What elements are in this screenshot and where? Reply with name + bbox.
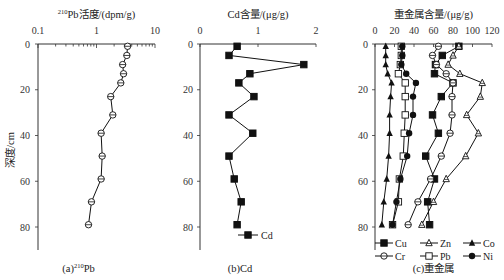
marker-open-square — [426, 253, 432, 259]
marker-filled-circle — [403, 71, 409, 77]
marker-filled-triangle — [383, 61, 389, 67]
marker-filled-triangle — [384, 70, 390, 76]
marker-filled-circle — [393, 199, 399, 205]
panel-a: 0.1110020406080210Pb活度/(dpm/g)(a)210Pb深度… — [4, 8, 160, 275]
y-tick-label: 40 — [183, 130, 193, 141]
marker-filled-square — [231, 176, 237, 182]
legend-label: Pb — [440, 251, 451, 262]
marker-filled-circle — [397, 176, 403, 182]
marker-filled-square — [247, 71, 253, 77]
marker-filled-square — [381, 240, 387, 246]
legend: CuZnCoCrPbNi — [375, 238, 495, 262]
x-tick-label: 20 — [390, 25, 400, 36]
y-tick-label: 60 — [20, 176, 30, 187]
marker-filled-triangle — [384, 175, 390, 181]
marker-filled-square — [226, 153, 232, 159]
x-tick-label: 1 — [94, 25, 99, 36]
marker-open-square — [402, 80, 408, 86]
marker-filled-square — [236, 80, 242, 86]
marker-filled-circle — [398, 61, 404, 67]
legend-label: Co — [483, 238, 495, 249]
x-tick-label: 60 — [429, 25, 439, 36]
panel-caption: (c)重金属 — [413, 262, 455, 275]
marker-open-square — [402, 93, 408, 99]
panel-b: 012020406080Cd含量/(μg/g)(b)CdCd — [183, 8, 319, 275]
y-axis-label: 深度/cm — [4, 132, 16, 168]
marker-filled-circle — [410, 93, 416, 99]
y-tick-label: 60 — [183, 176, 193, 187]
marker-filled-circle — [404, 153, 410, 159]
chart-title: 210Pb活度/(dpm/g) — [58, 8, 136, 21]
legend: Cd — [238, 230, 273, 241]
y-tick-label: 80 — [358, 222, 368, 233]
marker-filled-square — [424, 199, 430, 205]
x-tick-label: 10 — [150, 25, 160, 36]
y-tick-label: 40 — [20, 130, 30, 141]
x-tick-label: 40 — [409, 25, 419, 36]
marker-open-square — [395, 71, 401, 77]
legend-label: Cd — [261, 230, 273, 241]
panel-c: 020406080100120020406080重金属含量/(μg/g)(c)重… — [358, 8, 500, 275]
x-tick-label: 2 — [314, 25, 319, 36]
y-tick-label: 20 — [20, 84, 30, 95]
legend-label: Zn — [440, 238, 451, 249]
marker-filled-circle — [410, 112, 416, 118]
x-tick-label: 0 — [198, 25, 203, 36]
series-210pb — [85, 43, 130, 228]
marker-filled-square — [301, 61, 307, 67]
y-tick-label: 20 — [183, 84, 193, 95]
x-tick-label: 0 — [373, 25, 378, 36]
marker-filled-square — [226, 52, 232, 58]
marker-filled-square — [431, 71, 437, 77]
marker-filled-triangle — [387, 93, 393, 99]
x-tick-label: 0.1 — [32, 25, 45, 36]
marker-open-triangle — [457, 70, 463, 76]
marker-open-square — [402, 112, 408, 118]
marker-filled-square — [238, 199, 244, 205]
y-tick-label: 0 — [188, 39, 193, 50]
marker-open-triangle — [445, 61, 451, 67]
marker-filled-square — [234, 43, 240, 49]
marker-filled-triangle — [379, 221, 385, 227]
marker-filled-square — [226, 112, 232, 118]
series-co — [379, 43, 395, 228]
y-tick-label: 20 — [358, 84, 368, 95]
marker-filled-square — [250, 130, 256, 136]
marker-filled-triangle — [388, 79, 394, 85]
figure: 0.1110020406080210Pb活度/(dpm/g)(a)210Pb深度… — [0, 0, 504, 280]
y-tick-label: 60 — [358, 176, 368, 187]
chart-title: Cd含量/(μg/g) — [227, 8, 289, 21]
x-tick-label: 80 — [448, 25, 458, 36]
marker-filled-square — [439, 52, 445, 58]
marker-filled-triangle — [386, 111, 392, 117]
marker-open-triangle — [419, 221, 425, 227]
y-tick-label: 80 — [183, 222, 193, 233]
x-tick-label: 100 — [465, 25, 480, 36]
marker-filled-square — [245, 232, 251, 238]
legend-label: Ni — [483, 251, 493, 262]
marker-filled-square — [251, 93, 257, 99]
marker-filled-square — [438, 93, 444, 99]
marker-filled-square — [423, 153, 429, 159]
panel-caption: (b)Cd — [228, 263, 253, 275]
marker-filled-circle — [469, 253, 475, 259]
marker-filled-circle — [399, 43, 405, 49]
panel-caption: (a)210Pb — [62, 262, 95, 275]
marker-open-triangle — [477, 93, 483, 99]
marker-filled-triangle — [383, 52, 389, 58]
marker-filled-circle — [399, 52, 405, 58]
marker-filled-square — [426, 222, 432, 228]
marker-filled-square — [435, 130, 441, 136]
marker-filled-square — [429, 112, 435, 118]
y-tick-label: 40 — [358, 130, 368, 141]
marker-open-triangle — [462, 152, 468, 158]
marker-filled-triangle — [386, 130, 392, 136]
marker-filled-square — [234, 222, 240, 228]
chart-title: 重金属含量/(μg/g) — [394, 8, 473, 21]
x-tick-label: 120 — [485, 25, 500, 36]
marker-filled-triangle — [381, 198, 387, 204]
marker-filled-circle — [413, 80, 419, 86]
x-tick-label: 1 — [256, 25, 261, 36]
series-cd — [226, 43, 307, 228]
y-tick-label: 80 — [20, 222, 30, 233]
